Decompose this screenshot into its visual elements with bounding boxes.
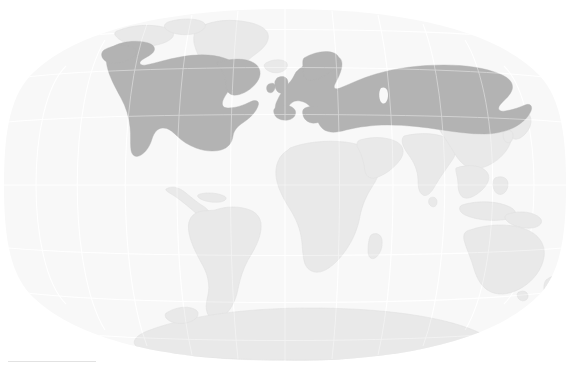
- region-philippines: [493, 177, 508, 195]
- region-sri-lanka: [429, 197, 437, 207]
- region-tasmania: [517, 291, 528, 301]
- world-map-container: [0, 0, 570, 370]
- scale-rule: [8, 361, 96, 362]
- region-caspian-sea: [379, 87, 388, 103]
- region-korea: [503, 130, 513, 142]
- region-arctic-islands-2: [164, 19, 205, 35]
- inland-water-layer: [379, 87, 388, 103]
- world-map-svg: [0, 0, 570, 370]
